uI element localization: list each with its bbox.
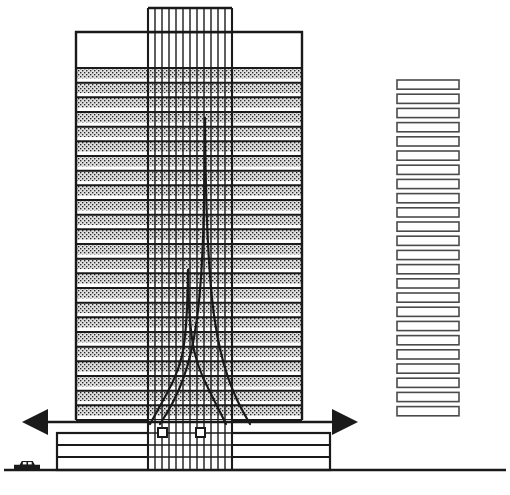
diagram-canvas bbox=[0, 0, 510, 495]
floor-plate-bar bbox=[397, 293, 459, 302]
arrow-head-left-icon bbox=[22, 409, 48, 435]
floor-plate-bar bbox=[397, 279, 459, 288]
floor-plate-bar bbox=[397, 151, 459, 160]
scale-car-icon bbox=[14, 461, 40, 470]
building-section-svg bbox=[0, 0, 510, 495]
floor-plate-bar bbox=[397, 222, 459, 231]
floor-plate-bar bbox=[397, 350, 459, 359]
floor-plate-bar bbox=[397, 165, 459, 174]
floor-plate-bar bbox=[397, 392, 459, 401]
floor-plate-bar bbox=[397, 236, 459, 245]
floor-plate-bar bbox=[397, 378, 459, 387]
core-opening-box bbox=[196, 428, 205, 437]
floor-plate-bar bbox=[397, 364, 459, 373]
floor-plate-bar bbox=[397, 179, 459, 188]
floor-plate-bar bbox=[397, 265, 459, 274]
floor-plate-bar bbox=[397, 123, 459, 132]
floor-plate-bar-column bbox=[397, 80, 459, 416]
car-window-icon bbox=[23, 462, 27, 464]
floor-plate-bar bbox=[397, 194, 459, 203]
floor-plate-bar bbox=[397, 80, 459, 89]
floor-plate-bar bbox=[397, 208, 459, 217]
floor-plate-bar bbox=[397, 250, 459, 259]
floor-plate-bar bbox=[397, 321, 459, 330]
core-opening-box bbox=[158, 428, 167, 437]
floor-plate-bar bbox=[397, 137, 459, 146]
car-window-icon bbox=[28, 462, 32, 464]
arrow-head-right-icon bbox=[332, 409, 358, 435]
floor-plate-bar bbox=[397, 94, 459, 103]
floor-plate-bar bbox=[397, 407, 459, 416]
floor-plate-bar bbox=[397, 307, 459, 316]
floor-plate-bar bbox=[397, 108, 459, 117]
car-body-icon bbox=[14, 461, 40, 470]
floor-plate-bar bbox=[397, 336, 459, 345]
service-core-grid bbox=[148, 8, 232, 470]
